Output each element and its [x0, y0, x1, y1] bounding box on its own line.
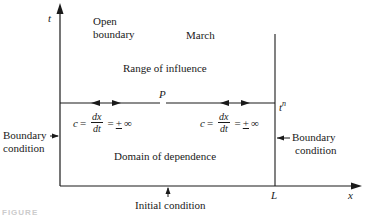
march-label: March	[186, 29, 215, 42]
initial-condition-arrow-icon	[166, 187, 171, 197]
initial-condition-label: Initial condition	[135, 199, 206, 212]
left-boundary-condition-label: Boundary condition	[3, 129, 46, 155]
open-boundary-label: Open boundary	[93, 15, 135, 41]
x-axis-label: x	[348, 189, 353, 202]
t-axis-arrowhead-icon	[57, 3, 64, 14]
t-axis-label: t	[48, 12, 51, 25]
right-boundary-condition-label: Boundary condition	[292, 131, 337, 157]
right-boundary-position-label: L	[271, 189, 277, 202]
wave-speed-equation-right: c = dx dt = + ∞	[200, 111, 259, 134]
right-boundary-arrow-icon	[277, 136, 290, 141]
point-p-label: P	[159, 88, 166, 101]
figure-caption: FIGURE	[2, 208, 38, 216]
x-axis	[60, 183, 362, 190]
diagram-canvas	[0, 0, 369, 216]
range-of-influence-label: Range of influence	[123, 62, 207, 75]
wave-speed-equation-left: c = dx dt = + ∞	[73, 111, 132, 134]
time-level-label: tn	[279, 97, 286, 114]
left-boundary-arrow-icon	[50, 134, 59, 139]
t-axis	[57, 3, 64, 186]
domain-of-dependence-label: Domain of dependence	[114, 150, 216, 163]
